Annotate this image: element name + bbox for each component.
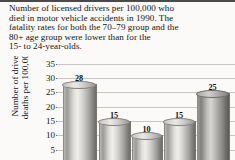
top-divider-rule [0,0,235,2]
y-tick-20: 20 [46,103,55,112]
bar-3[interactable] [132,135,161,160]
y-axis-tick-labels: 35 30 25 20 15 10 5 [40,56,55,160]
bar-2-body [99,121,131,160]
y-axis-title-line-2: deaths per 100,000 [20,56,30,136]
bar-4[interactable] [164,121,194,160]
y-tick-10: 10 [46,131,55,140]
bar-3-value-label: 10 [132,126,161,134]
y-tick-5: 5 [51,146,56,155]
gridline-35 [57,64,235,65]
bar-2-value-label: 15 [99,112,129,120]
bar-5-value-label: 25 [197,84,228,92]
y-axis-title: Number of driver deaths per 100,000 [10,56,31,136]
y-tick-15: 15 [46,117,55,126]
caption-line-5: 15- to 24-year-olds. [9,42,231,52]
bar-1[interactable] [63,84,95,160]
figure-caption: Number of licensed drivers per 100,000 w… [9,4,231,52]
bar-chart: Number of driver deaths per 100,000 35 3… [0,56,235,160]
figure-panel: Number of licensed drivers per 100,000 w… [0,0,235,160]
plot-area: 28 15 10 15 25 [57,56,235,160]
bar-1-value-label: 28 [63,75,95,83]
bar-1-body [63,84,97,160]
bar-2[interactable] [99,121,129,160]
y-tick-35: 35 [46,60,55,69]
bar-5-body [197,93,230,160]
y-tick-30: 30 [46,74,55,83]
bar-4-body [164,121,196,160]
bar-5[interactable] [197,93,228,160]
y-axis-title-line-1: Number of driver [10,56,20,136]
bar-4-value-label: 15 [164,112,194,120]
y-tick-25: 25 [46,88,55,97]
